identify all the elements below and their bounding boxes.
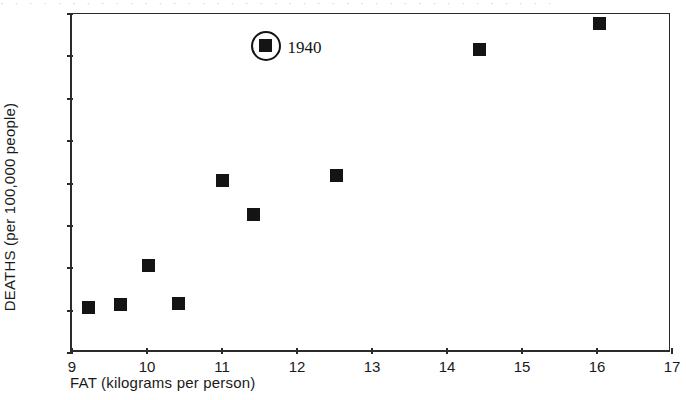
- annotation-circle: [251, 31, 281, 61]
- x-tick: [71, 348, 73, 354]
- x-tick: [446, 348, 448, 354]
- plot-area: 222324252627282930 91011121314151617 194…: [70, 13, 670, 352]
- y-tick: [67, 140, 73, 142]
- data-point: [172, 297, 185, 310]
- data-point: [593, 17, 606, 30]
- x-tick: [596, 348, 598, 354]
- data-point: [82, 301, 95, 314]
- y-tick: [67, 225, 73, 227]
- data-point: [247, 208, 260, 221]
- data-point: [330, 169, 343, 182]
- x-tick: [371, 348, 373, 354]
- x-tick-label: 17: [652, 359, 686, 374]
- y-tick: [67, 267, 73, 269]
- data-point: [142, 259, 155, 272]
- x-tick-label: 15: [502, 359, 542, 374]
- data-point: [216, 174, 229, 187]
- x-tick: [296, 348, 298, 354]
- x-tick-label: 16: [577, 359, 617, 374]
- x-tick: [671, 348, 673, 354]
- annotation-label: 1940: [288, 39, 322, 56]
- x-tick: [221, 348, 223, 354]
- x-tick-label: 14: [427, 359, 467, 374]
- data-point: [473, 43, 486, 56]
- y-tick: [67, 98, 73, 100]
- y-tick: [67, 55, 73, 57]
- x-tick: [146, 348, 148, 354]
- x-tick-label: 12: [277, 359, 317, 374]
- y-tick: [67, 13, 73, 15]
- x-tick-label: 11: [202, 359, 242, 374]
- x-tick-label: 10: [127, 359, 167, 374]
- data-point: [114, 298, 127, 311]
- x-tick-label: 9: [52, 359, 92, 374]
- y-axis-title: DEATHS (per 100,000 people): [1, 38, 23, 377]
- x-axis-title: FAT (kilograms per person): [70, 374, 390, 391]
- scatter-chart: DEATHS (per 100,000 people) FAT (kilogra…: [0, 0, 686, 400]
- y-tick: [67, 183, 73, 185]
- x-tick: [521, 348, 523, 354]
- y-tick: [67, 310, 73, 312]
- x-tick-label: 13: [352, 359, 392, 374]
